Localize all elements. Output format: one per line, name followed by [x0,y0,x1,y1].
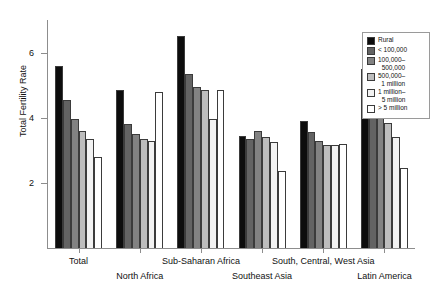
bar [132,134,140,248]
legend-label: Rural [378,36,394,44]
x-tick-mark [262,248,263,253]
bar [124,124,132,248]
bar [339,144,347,248]
legend-item: > 5 million [367,104,425,113]
bar [94,157,102,248]
bar [239,136,247,248]
bar [116,90,124,248]
bar [155,92,163,248]
bar [55,66,63,248]
y-tick-mark [41,53,47,54]
bar [323,145,331,248]
x-tick-label: North Africa [116,271,163,281]
legend: Rural< 100,000100,000–500,000500,000–1 m… [362,32,430,119]
bar [185,74,193,248]
legend-swatch [367,47,375,55]
y-tick-label: 6 [14,48,34,58]
legend-label: > 5 million [378,104,407,112]
y-tick-mark [41,118,47,119]
bar [246,139,254,248]
legend-item: 100,000–500,000 [367,56,425,71]
legend-label: 100,000–500,000 [378,56,405,71]
legend-swatch [367,37,375,45]
bar [392,137,400,248]
fertility-bar-chart: Total Fertility Rate 246 TotalNorth Afri… [0,0,432,294]
x-tick-label: Latin America [357,271,412,281]
bar [315,141,323,248]
x-tick-label: Total [69,256,88,266]
legend-label: < 100,000 [378,46,407,54]
bar [331,145,339,248]
bar [262,137,270,248]
bar-group [177,20,224,248]
bar [71,119,79,248]
x-tick-mark [323,248,324,253]
legend-item: < 100,000 [367,46,425,55]
bar-group [239,20,286,248]
bar-group [55,20,102,248]
bar [300,121,308,248]
x-tick-label: South, Central, West Asia [272,256,374,266]
bar [377,101,385,248]
x-tick-label: Sub-Saharan Africa [162,256,240,266]
x-tick-mark [384,248,385,253]
bar [63,100,71,248]
bar [217,90,225,248]
legend-item: 500,000–1 million [367,72,425,87]
legend-swatch [367,89,375,97]
bar [400,168,408,248]
legend-label: 500,000–1 million [378,72,405,87]
legend-swatch [367,105,375,113]
bar [177,36,185,248]
bar-group [300,20,347,248]
legend-swatch [367,73,375,81]
bar [308,132,316,248]
x-tick-mark [201,248,202,253]
bar [140,139,148,248]
legend-item: Rural [367,36,425,45]
bar [270,142,278,248]
x-tick-label: Southeast Asia [232,271,292,281]
bar [254,131,262,248]
plot-area [48,20,415,248]
x-tick-mark [79,248,80,253]
y-tick-label: 4 [14,113,34,123]
y-axis-title-text: Total Fertility Rate [18,65,28,137]
bar-group [116,20,163,248]
bar [148,141,156,248]
x-tick-mark [140,248,141,253]
bar [79,131,87,248]
bar [86,139,94,248]
legend-item: 1 million–5 million [367,88,425,103]
y-tick-label: 2 [14,178,34,188]
bar [384,123,392,248]
x-axis-line [47,248,415,249]
legend-swatch [367,57,375,65]
bar [201,90,209,248]
bar [209,119,217,248]
bar [193,87,201,248]
y-tick-mark [41,183,47,184]
legend-label: 1 million–5 million [378,88,405,103]
bar [278,171,286,248]
